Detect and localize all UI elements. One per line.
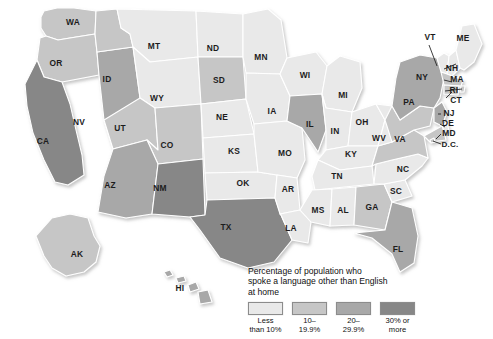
state-label-ct: CT	[450, 95, 462, 105]
state-label-va: VA	[394, 134, 405, 144]
state-label-nh: NH	[446, 63, 459, 73]
state-label-al: AL	[337, 205, 349, 215]
state-label-la: LA	[285, 223, 297, 233]
state-or	[37, 34, 99, 82]
state-nd	[196, 11, 243, 57]
legend-swatch-2	[336, 302, 371, 315]
state-label-me: ME	[457, 33, 470, 43]
state-label-tn: TN	[331, 171, 343, 181]
state-label-wa: WA	[66, 17, 80, 27]
state-label-ok: OK	[237, 178, 250, 188]
state-label-pa: PA	[403, 97, 414, 107]
state-label-vt: VT	[424, 32, 436, 42]
legend-item-1: 10– 19.9%	[292, 302, 327, 335]
state-label-ny: NY	[416, 72, 428, 82]
state-label-tx: TX	[220, 222, 231, 232]
state-label-mt: MT	[148, 41, 161, 51]
state-label-co: CO	[161, 140, 174, 150]
state-label-ga: GA	[366, 202, 379, 212]
legend-swatch-3	[380, 302, 415, 315]
state-label-ar: AR	[282, 184, 295, 194]
state-label-ms: MS	[312, 205, 325, 215]
map-container: WAORCANVIDMTWYUTCOAZNMNDSDNEKSOKTXMNIAMO…	[0, 0, 493, 339]
legend-label-0: Less than 10%	[248, 317, 283, 335]
state-label-ak: AK	[71, 249, 84, 259]
legend-item-0: Less than 10%	[248, 302, 283, 335]
legend-swatch-1	[292, 302, 327, 315]
state-label-sd: SD	[213, 75, 225, 85]
state-label-ia: IA	[268, 106, 277, 116]
legend-label-1: 10– 19.9%	[292, 317, 327, 335]
state-label-ut: UT	[114, 123, 126, 133]
legend-item-2: 20– 29.9%	[336, 302, 371, 335]
state-label-il: IL	[306, 119, 314, 129]
state-az	[98, 140, 158, 218]
state-label-ks: KS	[228, 146, 240, 156]
legend-item-3: 30% or more	[380, 302, 415, 335]
legend-swatch-0	[248, 302, 283, 315]
state-me	[456, 24, 482, 70]
state-label-in: IN	[331, 126, 340, 136]
state-label-nj: NJ	[443, 108, 454, 118]
state-label-hi: HI	[176, 283, 185, 293]
state-label-mi: MI	[338, 90, 348, 100]
state-mn	[243, 9, 287, 74]
legend-label-2: 20– 29.9%	[336, 317, 371, 335]
state-label-ma: MA	[450, 74, 463, 84]
state-label-nv: NV	[73, 117, 85, 127]
legend-heading: Percentage of population who spoke a lan…	[248, 266, 426, 297]
state-hi	[164, 270, 212, 304]
state-label-mn: MN	[254, 52, 267, 62]
map-legend: Percentage of population who spoke a lan…	[246, 266, 426, 335]
state-label-wy: WY	[150, 93, 164, 103]
state-mi	[322, 56, 362, 112]
state-label-az: AZ	[104, 180, 116, 190]
state-label-md: MD	[442, 128, 455, 138]
state-label-nc: NC	[397, 164, 410, 174]
state-label-oh: OH	[356, 117, 369, 127]
state-label-sc: SC	[390, 186, 402, 196]
state-label-ca: CA	[37, 136, 50, 146]
state-label-wv: WV	[372, 133, 386, 143]
state-ak	[36, 214, 100, 276]
state-ar	[275, 175, 300, 214]
state-label-ky: KY	[345, 149, 357, 159]
legend-label-3: 30% or more	[380, 317, 415, 335]
state-label-id: ID	[103, 74, 112, 84]
state-label-nd: ND	[207, 43, 220, 53]
state-label-wi: WI	[300, 70, 311, 80]
state-label-nm: NM	[153, 183, 166, 193]
state-label-dc: D.C.	[442, 140, 459, 149]
state-label-ne: NE	[216, 112, 228, 122]
state-label-mo: MO	[278, 148, 292, 158]
state-label-or: OR	[50, 58, 63, 68]
legend-swatch-row: Less than 10%10– 19.9%20– 29.9%30% or mo…	[248, 302, 426, 335]
state-label-fl: FL	[393, 244, 404, 254]
